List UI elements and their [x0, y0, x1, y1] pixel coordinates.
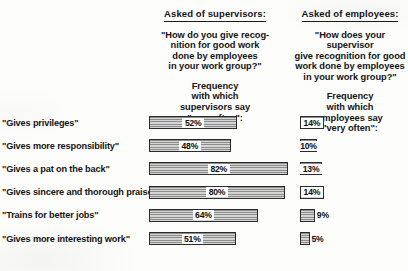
bar-employees: 5% — [300, 232, 310, 245]
bar-value-supervisors: 48% — [179, 141, 201, 151]
bar-supervisors: 82% — [149, 162, 288, 175]
bar-supervisors: 80% — [149, 186, 285, 199]
bar-employees: 10% — [300, 139, 317, 152]
bar-value-supervisors: 82% — [208, 164, 230, 174]
bar-employees: 13% — [300, 162, 322, 175]
bar-supervisors: 64% — [149, 209, 258, 222]
bar-value-employees: 9% — [317, 210, 329, 220]
row-label: "Gives sincere and thorough praise" — [2, 187, 148, 198]
panel-header-supervisors: Asked of supervisors: "How do you give r… — [140, 3, 290, 123]
bar-value-employees: 10% — [298, 141, 320, 151]
row-label: "Trains for better jobs" — [2, 210, 148, 221]
bar-value-supervisors: 64% — [193, 210, 215, 220]
chart-sheet: Asked of supervisors: "How do you give r… — [0, 0, 408, 271]
row-label: "Gives more interesting work" — [2, 234, 148, 245]
bar-supervisors: 48% — [149, 139, 231, 152]
row-label: "Gives privileges" — [2, 118, 148, 129]
panel-title-supervisors: Asked of supervisors: — [164, 8, 266, 22]
bar-value-employees: 14% — [301, 187, 323, 197]
bar-value-employees: 14% — [301, 118, 323, 128]
bar-value-supervisors: 80% — [206, 187, 228, 197]
panel-question-supervisors: "How do you give recog- nition for good … — [140, 30, 290, 72]
row-label: "Gives more responsibility" — [2, 141, 148, 152]
bar-value-employees: 5% — [312, 234, 324, 244]
bar-employees: 14% — [300, 186, 324, 199]
row-label: "Gives a pat on the back" — [2, 164, 148, 175]
bar-supervisors: 52% — [149, 116, 237, 129]
bar-value-supervisors: 52% — [182, 118, 204, 128]
panel-header-employees: Asked of employees: "How does your super… — [292, 3, 408, 134]
panel-question-employees: "How does your supervisor give recogniti… — [292, 30, 408, 83]
bar-value-supervisors: 51% — [182, 234, 204, 244]
panel-title-employees: Asked of employees: — [302, 8, 399, 22]
bar-employees: 9% — [300, 209, 315, 222]
bar-employees: 14% — [300, 116, 324, 129]
bar-supervisors: 51% — [149, 232, 236, 245]
bar-value-employees: 13% — [300, 164, 322, 174]
